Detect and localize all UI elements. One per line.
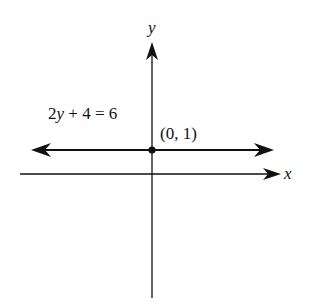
point-marker: [148, 146, 155, 153]
equation-variable: y: [55, 104, 65, 123]
y-axis: y: [146, 18, 158, 298]
y-axis-label: y: [146, 18, 156, 37]
x-axis-label: x: [283, 164, 292, 183]
equation-rest: + 4 = 6: [64, 104, 117, 123]
coordinate-plane-diagram: y x 2y + 4 = 6 (0, 1): [0, 0, 310, 308]
equation-coefficient: 2: [48, 104, 57, 123]
equation-label: 2y + 4 = 6: [48, 104, 117, 123]
point-label: (0, 1): [160, 124, 197, 143]
x-axis: x: [20, 164, 292, 183]
